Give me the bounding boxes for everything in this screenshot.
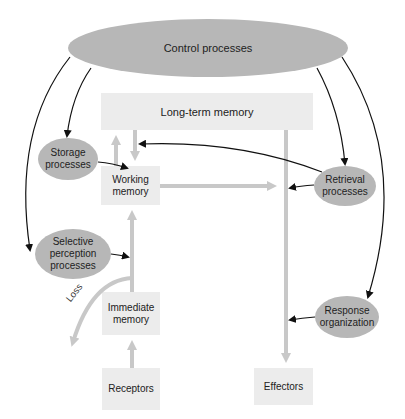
retrieval-line1: Retrieval: [325, 174, 364, 186]
immediate-line1: Immediate: [108, 302, 155, 314]
long-term-memory-text: Long-term memory: [161, 106, 254, 118]
receptors-label: Receptors: [102, 368, 160, 410]
response-line2: organization: [320, 317, 374, 329]
arrow-selective-to-flow: [111, 254, 128, 257]
selective-perception-label: Selective perception processes: [35, 229, 111, 279]
effectors-label: Effectors: [254, 368, 313, 405]
receptors-text: Receptors: [108, 383, 154, 395]
long-term-memory-label: Long-term memory: [101, 93, 313, 130]
arrow-retrieval-to-flow-mid: [290, 185, 314, 188]
retrieval-line2: processes: [322, 186, 368, 198]
control-processes-text: Control processes: [164, 42, 253, 54]
immediate-memory-label: Immediate memory: [102, 292, 160, 335]
diagram-canvas: [0, 0, 405, 419]
storage-line2: processes: [45, 159, 91, 171]
effectors-text: Effectors: [264, 381, 303, 393]
working-memory-label: Working memory: [101, 166, 160, 205]
immediate-line2: memory: [113, 314, 149, 326]
selective-line1: Selective: [53, 236, 94, 248]
working-line2: memory: [112, 186, 148, 198]
arrow-control-to-storage: [67, 68, 91, 136]
response-organization-label: Response organization: [315, 296, 379, 338]
storage-processes-label: Storage processes: [38, 138, 98, 180]
arrow-control-to-retrieval: [317, 68, 345, 164]
arrow-response-to-flow: [290, 317, 315, 320]
working-line1: Working: [112, 174, 149, 186]
selective-line3: processes: [50, 260, 96, 272]
selective-line2: perception: [50, 248, 97, 260]
arrow-retrieval-to-flow-top: [140, 144, 322, 172]
retrieval-processes-label: Retrieval processes: [314, 166, 376, 206]
response-line1: Response: [324, 305, 369, 317]
storage-line1: Storage: [50, 147, 85, 159]
control-processes-label: Control processes: [68, 38, 348, 58]
